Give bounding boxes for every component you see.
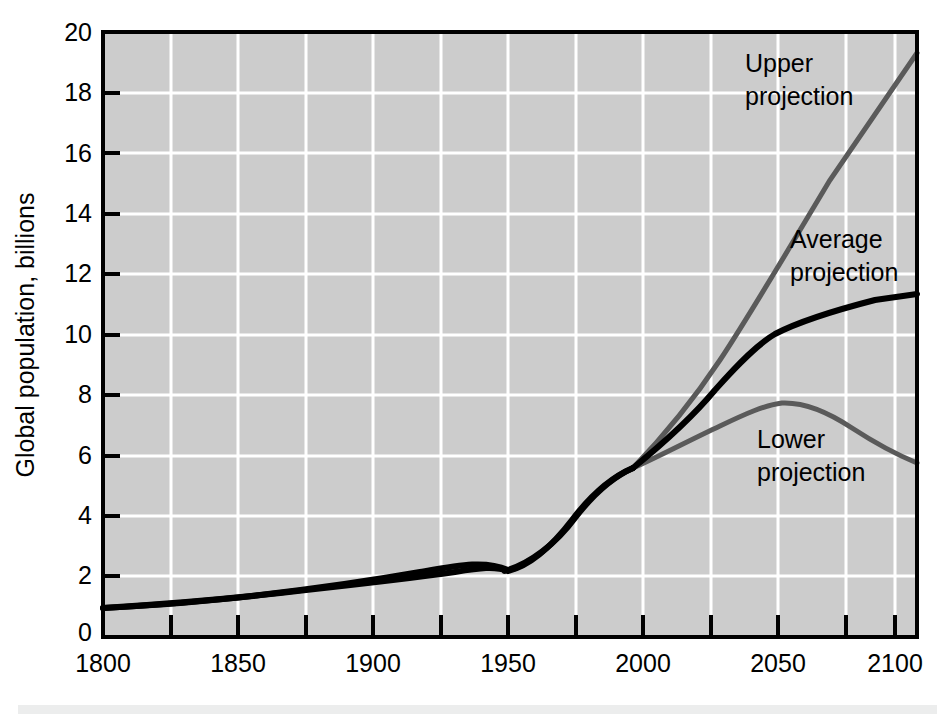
lower-projection-label-line1: Lower (757, 425, 825, 453)
lower-projection-label-line2: projection (757, 458, 865, 486)
y-tick-label-20: 20 (64, 18, 92, 46)
bottom-divider-strip (18, 705, 937, 714)
y-tick-label-0: 0 (78, 618, 92, 646)
x-tick-label-1900: 1900 (345, 649, 401, 677)
average-projection-label-line2: projection (790, 258, 898, 286)
y-tick-label-8: 8 (78, 380, 92, 408)
x-tick-label-1800: 1800 (75, 649, 131, 677)
y-tick-label-6: 6 (78, 441, 92, 469)
upper-projection-label-line1: Upper (745, 49, 813, 77)
y-tick-label-10: 10 (64, 320, 92, 348)
y-tick-label-4: 4 (78, 501, 92, 529)
x-tick-label-2050: 2050 (750, 649, 806, 677)
average-projection-label-line1: Average (790, 225, 883, 253)
x-tick-label-1850: 1850 (210, 649, 266, 677)
x-tick-label-2000: 2000 (615, 649, 671, 677)
y-tick-label-16: 16 (64, 139, 92, 167)
y-tick-label-18: 18 (64, 78, 92, 106)
y-axis-tick-labels: 0 2 4 6 8 10 12 14 16 18 20 (64, 18, 92, 646)
y-axis-title: Global population, billions (11, 193, 39, 478)
y-tick-label-2: 2 (78, 561, 92, 589)
upper-projection-label-line2: projection (745, 82, 853, 110)
x-tick-label-1950: 1950 (480, 649, 536, 677)
x-tick-label-2100: 2100 (867, 649, 923, 677)
population-projection-chart: 0 2 4 6 8 10 12 14 16 18 20 1800 1850 19… (0, 0, 937, 718)
figure-container: 0 2 4 6 8 10 12 14 16 18 20 1800 1850 19… (0, 0, 937, 718)
y-tick-label-14: 14 (64, 199, 92, 227)
y-tick-label-12: 12 (64, 259, 92, 287)
x-axis-tick-labels: 1800 1850 1900 1950 2000 2050 2100 (75, 649, 923, 677)
